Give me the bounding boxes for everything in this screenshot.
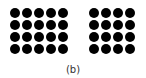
dot [89, 8, 99, 18]
dot [125, 8, 135, 18]
dot [22, 8, 32, 18]
dot [58, 32, 68, 42]
dot [22, 32, 32, 42]
dot [58, 20, 68, 30]
dot [34, 32, 44, 42]
dot [10, 32, 20, 42]
dot [89, 32, 99, 42]
dot [101, 44, 111, 54]
dot [113, 44, 123, 54]
dot [34, 44, 44, 54]
figure-caption: (b) [0, 64, 146, 76]
dot [34, 8, 44, 18]
dot [58, 8, 68, 18]
dot [46, 32, 56, 42]
dot [89, 20, 99, 30]
dot [89, 44, 99, 54]
right-dot-grid [89, 8, 135, 54]
dot [58, 44, 68, 54]
dot [101, 8, 111, 18]
dot [101, 32, 111, 42]
dot [113, 20, 123, 30]
dot [46, 20, 56, 30]
left-dot-grid [10, 8, 68, 54]
dot [22, 44, 32, 54]
dot [101, 20, 111, 30]
dot [22, 20, 32, 30]
dot [10, 20, 20, 30]
dot [113, 8, 123, 18]
dot [46, 44, 56, 54]
dot [34, 20, 44, 30]
dot [10, 8, 20, 18]
dot [10, 44, 20, 54]
dot [125, 32, 135, 42]
dot [125, 20, 135, 30]
dot [46, 8, 56, 18]
dot [125, 44, 135, 54]
dot [113, 32, 123, 42]
